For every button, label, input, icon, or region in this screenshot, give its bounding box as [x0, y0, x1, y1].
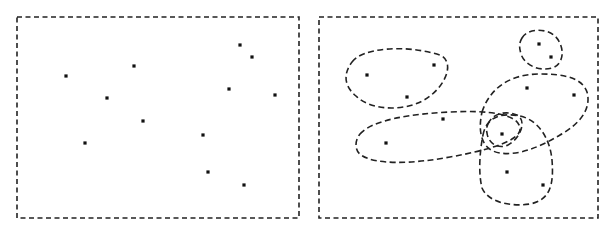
vertex-v4 — [441, 117, 444, 120]
hyperedge-e4 — [480, 74, 588, 154]
vertex-v9 — [572, 93, 575, 96]
vertex-v9 — [273, 93, 276, 96]
panel-frame — [319, 17, 598, 218]
hyperedge-e1 — [346, 49, 448, 108]
hypergraph-diagram — [0, 0, 612, 232]
vertex-v11 — [206, 170, 209, 173]
vertex-v5 — [83, 141, 86, 144]
hyperedge-e3 — [520, 30, 563, 69]
hyperedge-e5 — [487, 113, 522, 147]
vertex-v1 — [365, 73, 368, 76]
vertex-v1 — [64, 74, 67, 77]
vertex-v7 — [549, 55, 552, 58]
vertex-v4 — [141, 119, 144, 122]
vertex-v2 — [432, 63, 435, 66]
panel-with-hyperedges — [319, 17, 598, 218]
panel-frame — [17, 17, 299, 218]
vertex-v6 — [238, 43, 241, 46]
vertex-v2 — [132, 64, 135, 67]
vertex-v5 — [384, 141, 387, 144]
panel-vertices-only — [17, 17, 299, 218]
vertex-v6 — [537, 42, 540, 45]
vertex-v7 — [250, 55, 253, 58]
vertex-v8 — [525, 86, 528, 89]
hyperedge-e6 — [480, 115, 553, 205]
hyperedge-e2 — [356, 112, 520, 163]
vertex-v12 — [242, 183, 245, 186]
vertex-group — [64, 43, 276, 186]
vertex-v11 — [505, 170, 508, 173]
vertex-v10 — [201, 133, 204, 136]
vertex-group — [365, 42, 575, 186]
vertex-v8 — [227, 87, 230, 90]
vertex-v12 — [541, 183, 544, 186]
vertex-v10 — [500, 132, 503, 135]
vertex-v3 — [405, 95, 408, 98]
vertex-v3 — [105, 96, 108, 99]
